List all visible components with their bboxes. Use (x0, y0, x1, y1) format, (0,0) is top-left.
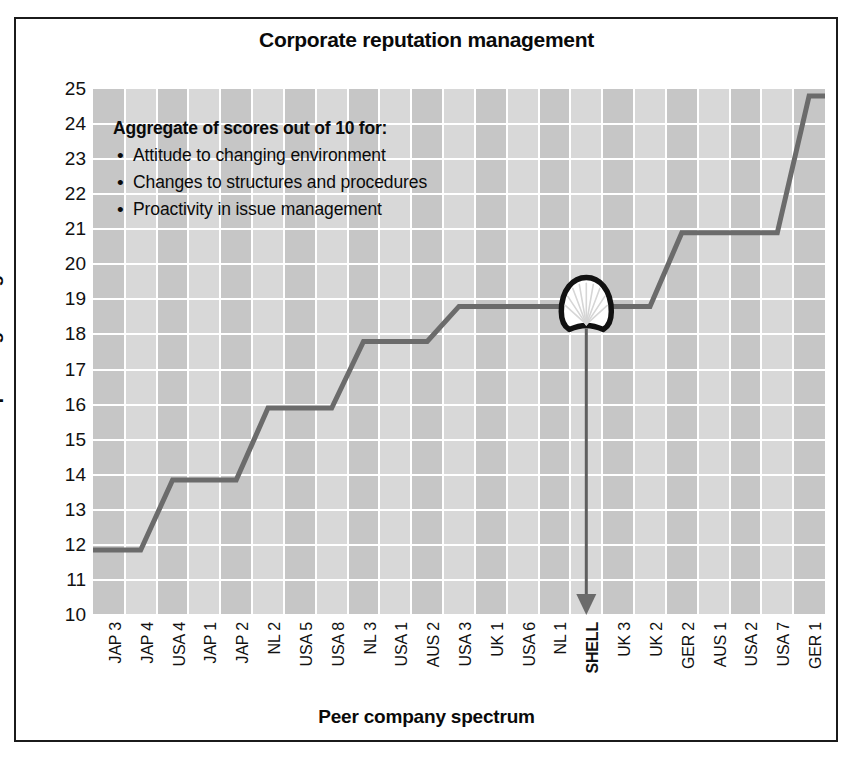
x-tick-label: NL 1 (552, 622, 570, 654)
x-tick-label: GER 2 (680, 622, 698, 669)
annotation-bullet-list: Attitude to changing environmentChanges … (113, 142, 427, 223)
y-tick-label: 13 (46, 499, 86, 521)
y-tick-label: 22 (46, 183, 86, 205)
x-tick-label: USA 4 (171, 622, 189, 666)
x-tick-label: UK 1 (489, 622, 507, 657)
y-tick-label: 20 (46, 253, 86, 275)
y-tick-label: 16 (46, 394, 86, 416)
y-tick-label: 17 (46, 359, 86, 381)
y-tick-label: 19 (46, 288, 86, 310)
y-tick-label: 21 (46, 218, 86, 240)
y-tick-label: 24 (46, 113, 86, 135)
x-tick-label: UK 3 (616, 622, 634, 657)
x-tick-label: USA 3 (457, 622, 475, 666)
annotation-heading: Aggregate of scores out of 10 for: (113, 115, 427, 142)
annotation-bullet: Proactivity in issue management (131, 196, 427, 223)
x-tick-label: JAP 3 (107, 622, 125, 663)
y-tick-label: 10 (46, 604, 86, 626)
chart-page: Corporate reputation management 10111213… (0, 0, 853, 767)
x-tick-label: SHELL (584, 622, 602, 673)
x-tick-label: AUS 1 (712, 622, 730, 667)
y-tick-label: 25 (46, 78, 86, 100)
x-tick-label: JAP 1 (202, 622, 220, 663)
x-tick-label: AUS 2 (425, 622, 443, 667)
x-tick-label: USA 7 (775, 622, 793, 666)
x-tick-label: NL 3 (362, 622, 380, 654)
x-axis-title: Peer company spectrum (0, 706, 853, 728)
y-tick-label: 11 (46, 569, 86, 591)
y-tick-label: 18 (46, 323, 86, 345)
x-tick-label: USA 5 (298, 622, 316, 666)
annotation-box: Aggregate of scores out of 10 for: Attit… (113, 115, 427, 224)
x-tick-label: GER 1 (807, 622, 825, 669)
y-tick-label: 14 (46, 464, 86, 486)
x-tick-label: JAP 2 (234, 622, 252, 663)
annotation-bullet: Changes to structures and procedures (131, 169, 427, 196)
x-tick-label: NL 2 (266, 622, 284, 654)
x-tick-label: USA 6 (521, 622, 539, 666)
y-tick-label: 15 (46, 429, 86, 451)
x-tick-label: USA 8 (330, 622, 348, 666)
y-tick-label: 23 (46, 148, 86, 170)
y-tick-label: 12 (46, 534, 86, 556)
x-tick-label: UK 2 (648, 622, 666, 657)
x-tick-label: JAP 4 (139, 622, 157, 663)
x-tick-label: USA 2 (743, 622, 761, 666)
x-tick-label: USA 1 (393, 622, 411, 666)
annotation-bullet: Attitude to changing environment (131, 142, 427, 169)
y-axis-title: Composite grading (0, 275, 4, 445)
